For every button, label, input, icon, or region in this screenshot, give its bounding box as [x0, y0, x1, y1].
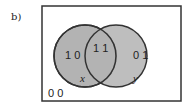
left-only-label: 1 0 — [65, 49, 80, 61]
venn-diagram: 1 0 1 1 0 1 x y 0 0 — [0, 0, 189, 105]
right-only-label: 0 1 — [133, 49, 148, 61]
intersection-label: 1 1 — [93, 42, 108, 54]
universe-label: 0 0 — [48, 87, 63, 99]
set-x-name: x — [79, 72, 85, 84]
set-y-name: y — [132, 72, 138, 84]
